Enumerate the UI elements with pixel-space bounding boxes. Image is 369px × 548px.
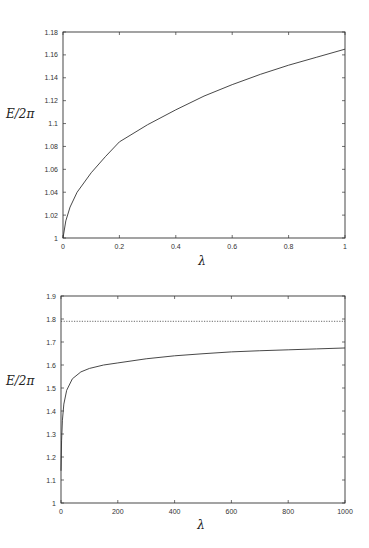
x-tick-label: 400 [169,508,181,515]
figure: 00.20.40.60.8111.021.041.061.081.11.121.… [0,0,369,548]
y-tick-label: 1.14 [44,74,58,81]
x-tick-label: 200 [112,508,124,515]
x-tick-label: 0.8 [284,243,294,250]
plot-frame [61,296,345,503]
y-tick-label: 1 [52,500,56,507]
x-tick-label: 0.6 [227,243,237,250]
x-tick-label: 600 [226,508,238,515]
y-axis-label: E/2π [5,374,35,388]
x-tick-label: 1000 [337,508,353,515]
x-tick-label: 0.4 [171,243,181,250]
x-axis-label: λ [196,518,205,532]
y-tick-label: 1.04 [44,189,58,196]
y-tick-label: 1.5 [46,385,56,392]
top-chart: 00.20.40.60.8111.021.041.061.081.11.121.… [5,29,347,269]
y-tick-label: 1.1 [48,120,58,127]
energy-curve [61,348,345,471]
x-tick-label: 0 [59,508,63,515]
y-tick-label: 1.7 [46,339,56,346]
x-tick-label: 800 [282,508,294,515]
y-tick-label: 1.12 [44,97,58,104]
energy-curve [63,49,345,238]
x-tick-label: 1 [343,243,347,250]
y-tick-label: 1.3 [46,431,56,438]
y-tick-label: 1.06 [44,166,58,173]
y-tick-label: 1 [54,235,58,242]
y-tick-label: 1.16 [44,51,58,58]
y-tick-label: 1.9 [46,293,56,300]
x-tick-label: 0 [61,243,65,250]
y-tick-label: 1.08 [44,143,58,150]
y-tick-label: 1.1 [46,477,56,484]
x-axis-label: λ [197,254,206,268]
bottom-chart: 0200400600800100011.11.21.31.41.51.61.71… [5,293,353,533]
y-tick-label: 1.8 [46,316,56,323]
y-tick-label: 1.02 [44,212,58,219]
plot-frame [63,32,345,238]
y-tick-label: 1.18 [44,29,58,36]
y-tick-label: 1.4 [46,408,56,415]
y-axis-label: E/2π [5,107,35,121]
y-tick-label: 1.6 [46,362,56,369]
x-tick-label: 0.2 [115,243,125,250]
y-tick-label: 1.2 [46,454,56,461]
